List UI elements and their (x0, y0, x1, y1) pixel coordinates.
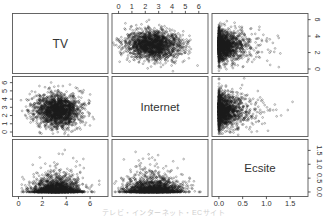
svg-text:6: 6 (313, 18, 322, 22)
svg-text:TV: TV (53, 37, 68, 51)
svg-text:1: 1 (0, 122, 9, 126)
svg-text:0: 0 (0, 130, 9, 134)
scatterplot-matrix-figure: TVInternetEcsite0123456024601234560.00.5… (0, 0, 327, 220)
svg-text:0.5: 0.5 (315, 173, 324, 183)
svg-text:1.5: 1.5 (315, 145, 324, 155)
svg-text:0: 0 (116, 2, 120, 11)
svg-text:5: 5 (0, 89, 9, 93)
svg-text:2: 2 (143, 2, 147, 11)
svg-text:2: 2 (313, 50, 322, 54)
svg-text:6: 6 (0, 81, 9, 85)
svg-text:0: 0 (313, 67, 322, 71)
svg-text:Ecsite: Ecsite (244, 162, 275, 174)
svg-text:6: 6 (197, 2, 201, 11)
svg-text:1: 1 (130, 2, 134, 11)
svg-text:2: 2 (0, 113, 9, 117)
svg-text:Internet: Internet (141, 101, 181, 113)
svg-text:4: 4 (0, 97, 9, 101)
svg-text:3: 3 (0, 105, 9, 109)
svg-text:4: 4 (313, 34, 322, 38)
figure-caption: テレビ・インターネット・ECサイト (0, 205, 327, 220)
svg-text:0.0: 0.0 (315, 187, 324, 197)
svg-text:5: 5 (183, 2, 187, 11)
svg-text:1.0: 1.0 (315, 159, 324, 169)
svg-text:4: 4 (170, 2, 174, 11)
svg-text:3: 3 (157, 2, 161, 11)
